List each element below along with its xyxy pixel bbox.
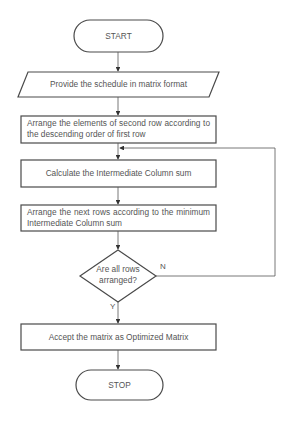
input-label: Provide the schedule in matrix format — [22, 72, 215, 97]
decision-label-line1: Are all rows — [88, 264, 148, 275]
step3-label: Arrange the next rows according to the m… — [27, 207, 210, 231]
decision-label: Are all rows arranged? — [88, 264, 148, 286]
start-label: START — [74, 20, 163, 52]
step1-label: Arrange the elements of second row accor… — [27, 118, 210, 142]
step2-label: Calculate the Intermediate Column sum — [21, 160, 216, 187]
decision-label-line2: arranged? — [88, 275, 148, 286]
stop-label: STOP — [76, 370, 163, 400]
yes-label: Y — [110, 302, 115, 311]
no-label: N — [160, 262, 166, 271]
step4-label: Accept the matrix as Optimized Matrix — [21, 324, 216, 350]
